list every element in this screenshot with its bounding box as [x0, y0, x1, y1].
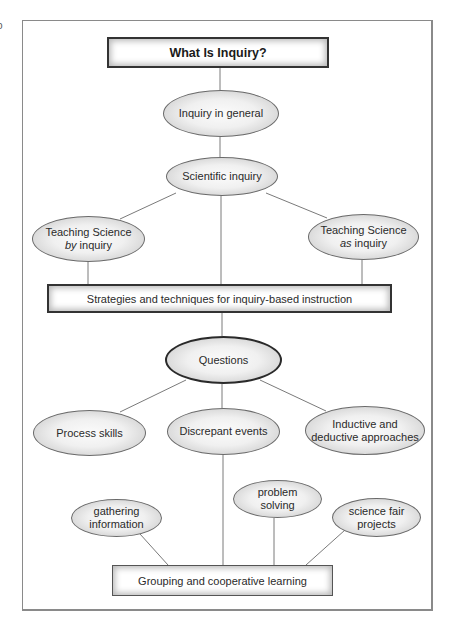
node-process-skills: Process skills — [33, 410, 146, 456]
grouping-text: Grouping and cooperative learning — [138, 575, 307, 587]
node-label-line2: deductive approaches — [311, 431, 419, 443]
node-label: problem solving — [258, 486, 298, 512]
strategies-box: Strategies and techniques for inquiry-ba… — [47, 284, 392, 313]
grouping-box: Grouping and cooperative learning — [112, 565, 333, 596]
node-label: gathering information — [89, 505, 143, 531]
link-questions-inductive — [260, 380, 326, 411]
link-scientific-by — [120, 193, 176, 219]
node-science-fair-projects: science fair projects — [332, 498, 421, 537]
node-scientific-inquiry: Scientific inquiry — [166, 157, 278, 196]
node-label: Teaching Science as inquiry — [320, 224, 406, 250]
node-label-line2: information — [89, 518, 143, 530]
node-gathering-information: gathering information — [71, 499, 162, 537]
node-label: Teaching Science by inquiry — [45, 226, 131, 252]
node-inductive-deductive: Inductive and deductive approaches — [305, 406, 425, 455]
node-label-line2: projects — [357, 518, 396, 530]
link-gathering-grouping — [140, 534, 168, 565]
node-label: Questions — [199, 354, 249, 367]
node-label-line1: science fair — [349, 505, 405, 517]
node-label: Scientific inquiry — [182, 170, 261, 183]
node-label: Discrepant events — [179, 425, 267, 438]
strategies-text: Strategies and techniques for inquiry-ba… — [87, 293, 352, 305]
node-label-line2: solving — [260, 499, 294, 511]
node-label: science fair projects — [349, 505, 405, 531]
link-scientific-as — [266, 193, 327, 218]
node-problem-solving: problem solving — [233, 480, 322, 518]
title-text: What Is Inquiry? — [169, 46, 266, 60]
node-label-rest: inquiry — [77, 239, 112, 251]
node-discrepant-events: Discrepant events — [167, 408, 280, 455]
node-questions: Questions — [165, 336, 282, 384]
node-label-line1: Inductive and — [332, 418, 397, 430]
node-label: Process skills — [56, 427, 123, 440]
node-label-line1: gathering — [94, 505, 140, 517]
node-label-line1: Teaching Science — [320, 224, 406, 236]
node-label-rest: inquiry — [352, 237, 387, 249]
node-teaching-science-as-inquiry: Teaching Science as inquiry — [308, 214, 419, 260]
node-label: Inquiry in general — [179, 107, 263, 120]
node-label: Inductive and deductive approaches — [311, 418, 419, 444]
node-teaching-science-by-inquiry: Teaching Science by inquiry — [32, 216, 145, 262]
node-label-italic: by — [65, 239, 77, 251]
link-questions-process — [120, 380, 186, 412]
node-inquiry-in-general: Inquiry in general — [163, 90, 279, 137]
node-label-line1: Teaching Science — [45, 226, 131, 238]
node-label-line1: problem — [258, 486, 298, 498]
title-box: What Is Inquiry? — [107, 37, 329, 68]
link-sciencefair-grouping — [306, 530, 345, 565]
node-label-italic: as — [340, 237, 352, 249]
